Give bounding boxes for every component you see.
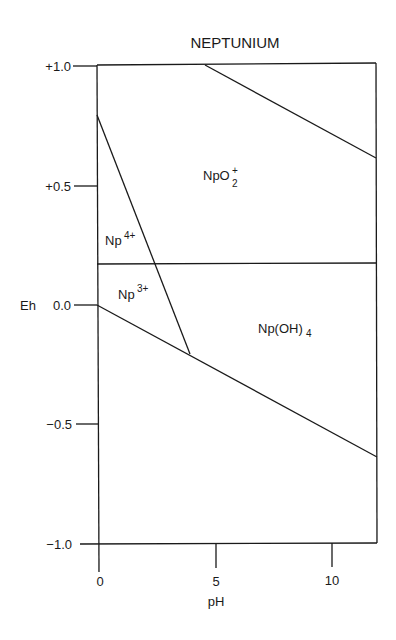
y-axis-label: Eh <box>20 298 36 313</box>
region-label-npo2-sup: + <box>232 165 238 176</box>
xtick-label: 10 <box>325 573 339 588</box>
region-label-npoh4: Np(OH) <box>258 321 303 336</box>
chart-title: NEPTUNIUM <box>190 34 279 51</box>
plot-frame <box>80 63 377 572</box>
y-ticks <box>73 66 98 424</box>
ytick-label: +1.0 <box>45 59 71 74</box>
boundaries <box>97 65 377 457</box>
boundary-lower <box>97 305 377 457</box>
x-axis-label: pH <box>208 594 225 609</box>
region-label-np4-sup: 4+ <box>124 230 136 241</box>
xtick-label: 5 <box>212 574 219 589</box>
region-label-npo2-sub: 2 <box>232 178 238 189</box>
region-label-np4: Np <box>105 233 122 248</box>
boundary-horizontal <box>97 263 376 264</box>
x-tick-labels: 0 5 10 <box>96 573 339 589</box>
ytick-label: −0.5 <box>46 417 72 432</box>
y-tick-labels: +1.0 +0.5 0.0 −0.5 −1.0 <box>45 59 72 552</box>
x-ticks <box>216 543 332 568</box>
region-label-np3-sup: 3+ <box>137 283 149 294</box>
ytick-label: 0.0 <box>53 298 71 313</box>
eh-ph-diagram: NEPTUNIUM +1.0 +0.5 0.0 −0.5 −1.0 Eh 0 5… <box>0 0 396 640</box>
y-axis-line <box>97 65 99 572</box>
region-label-npo2: NpO <box>203 168 230 183</box>
boundary-npo2-upper <box>205 65 376 158</box>
xtick-label: 0 <box>96 574 103 589</box>
region-label-np3: Np <box>118 287 135 302</box>
ytick-label: −1.0 <box>46 537 72 552</box>
region-label-npoh4-sub: 4 <box>306 328 312 339</box>
right-border <box>376 63 377 543</box>
region-labels: NpO + 2 Np 4+ Np 3+ Np(OH) 4 <box>105 165 312 339</box>
top-border <box>97 63 376 65</box>
ytick-label: +0.5 <box>45 179 71 194</box>
